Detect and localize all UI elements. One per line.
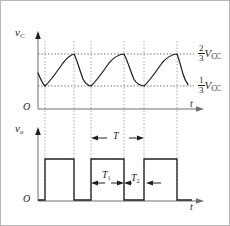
- output-voltage-square-wave: [38, 159, 192, 200]
- top-x-axis-label: t: [190, 99, 193, 109]
- t1-dimension-arrow: [91, 181, 124, 186]
- t1-arrow-left-head: [91, 181, 98, 186]
- bottom-y-axis-arrow: [35, 127, 41, 135]
- t2-label: T2: [131, 173, 140, 184]
- capacitor-voltage-curve: [38, 54, 188, 86]
- upper-threshold-unit: VCC: [205, 47, 221, 59]
- waveform-diagram: [1, 1, 230, 226]
- period-label: T: [113, 131, 119, 141]
- bottom-x-axis-arrow: [196, 198, 204, 204]
- grid-vertical-lines: [45, 41, 177, 201]
- bottom-y-axis-label: vo: [15, 123, 23, 136]
- bottom-origin-label: O: [23, 194, 30, 204]
- t1-arrow-right-head: [117, 181, 124, 186]
- t2-arrow-left-head: [124, 181, 131, 186]
- lower-threshold-label: 1 3 VCC: [198, 76, 221, 95]
- t1-label: T1: [102, 170, 111, 181]
- bottom-axes: [38, 131, 199, 201]
- top-axes: [38, 35, 199, 109]
- top-y-axis-label: vC: [15, 27, 24, 40]
- t2-dimension-arrow: [124, 181, 161, 186]
- lower-threshold-unit: VCC: [205, 79, 221, 91]
- t2-arrow-right-head: [146, 181, 153, 186]
- figure-canvas: vC t O 2 3 VCC 1 3 VCC vo t O T T1 T2: [0, 0, 230, 226]
- top-y-axis-arrow: [35, 31, 41, 39]
- threshold-lines: [38, 54, 194, 86]
- bottom-x-axis-label: t: [190, 202, 193, 212]
- top-x-axis-arrow: [196, 106, 204, 112]
- top-origin-label: O: [23, 102, 30, 112]
- period-arrow-right-head: [137, 136, 144, 141]
- upper-threshold-label: 2 3 VCC: [198, 44, 221, 63]
- period-arrow-left-head: [91, 136, 98, 141]
